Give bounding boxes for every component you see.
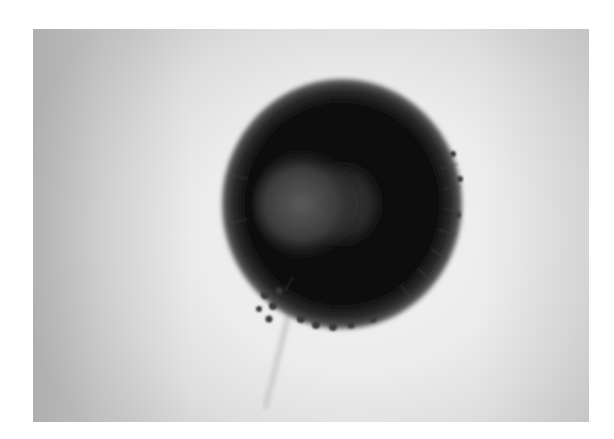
micrograph [33,29,589,422]
conidial-head [33,29,589,422]
